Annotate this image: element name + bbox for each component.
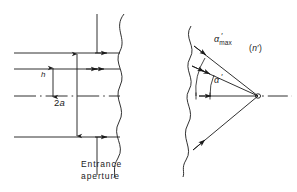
alpha-prime-glyph: α <box>214 75 219 85</box>
refractive-index-label: (n′) <box>249 44 262 53</box>
aperture-diameter-label: 2a <box>54 98 65 108</box>
right-break-wavy-line <box>183 26 192 177</box>
alpha-prime-symbol: α′ <box>214 75 219 85</box>
marginal-ray-upper-arrow <box>194 46 206 55</box>
refractive-index-close-paren: ) <box>259 43 262 53</box>
entrance-aperture-line1: Entrance <box>81 159 122 169</box>
ray-height-label: h <box>41 71 45 79</box>
alpha-prime-label: α′ <box>214 76 219 85</box>
alpha-max-subscript: max <box>219 39 232 46</box>
image-space-group <box>183 26 292 177</box>
entrance-aperture-line2: aperture <box>81 172 122 181</box>
alpha-prime-prime-glyph: ′ <box>221 73 223 81</box>
diagram-canvas <box>0 0 297 192</box>
alpha-max-label: α′max <box>214 35 232 44</box>
aperture-diameter-symbol: a <box>60 97 66 108</box>
entrance-aperture-label: Entrance aperture <box>81 160 122 180</box>
ray-upper-inner-arrow-b <box>199 69 210 74</box>
alpha-max-arc <box>196 58 205 96</box>
object-space-group <box>14 14 124 178</box>
marginal-ray-lower-arrow <box>193 140 205 150</box>
optical-diagram-figure: h 2a Entrance aperture α′max α′ (n′) <box>0 0 297 192</box>
